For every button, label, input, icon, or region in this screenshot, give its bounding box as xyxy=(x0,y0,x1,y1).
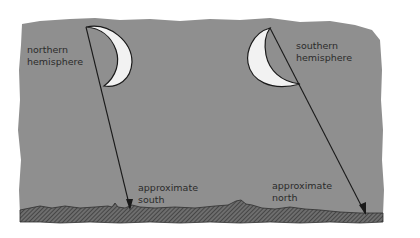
diagram-canvas xyxy=(0,0,420,238)
north-label-line-2: north xyxy=(272,192,332,204)
approximate-south-label: approximate south xyxy=(138,182,198,206)
northern-label-line-2: hemisphere xyxy=(27,56,83,68)
southern-label-line-1: southern xyxy=(296,40,352,52)
northern-label-line-1: northern xyxy=(27,44,83,56)
approximate-north-label: approximate north xyxy=(272,180,332,204)
moon-direction-diagram: northern hemisphere southern hemisphere … xyxy=(0,0,420,238)
north-label-line-1: approximate xyxy=(272,180,332,192)
southern-hemisphere-label: southern hemisphere xyxy=(296,40,352,64)
southern-label-line-2: hemisphere xyxy=(296,52,352,64)
south-label-line-2: south xyxy=(138,194,198,206)
northern-hemisphere-label: northern hemisphere xyxy=(27,44,83,68)
south-label-line-1: approximate xyxy=(138,182,198,194)
